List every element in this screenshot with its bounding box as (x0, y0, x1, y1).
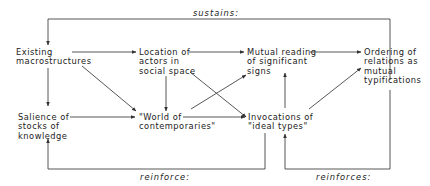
node-location-of-actors: Location of actors in social space (139, 48, 196, 76)
label-sustains: sustains: (193, 8, 239, 18)
edge-sustains (48, 19, 390, 80)
node-ordering-of-relations: Ordering of relations as mutual typifica… (364, 48, 421, 85)
edge-existing-world (82, 66, 136, 111)
edge-world-mutual (191, 75, 246, 109)
node-invocations-of-ideal-types: Invocations of "ideal types" (248, 113, 313, 132)
node-world-of-contemporaries: "World of contemporaries" (139, 113, 216, 132)
label-reinforces: reinforces: (316, 172, 371, 182)
edge-reinforce (48, 133, 265, 169)
node-existing-macrostructures: Existing macrostructures (16, 48, 92, 67)
edge-location-invocations (190, 72, 246, 117)
node-salience-of-stocks: Salience of stocks of knowledge (18, 113, 69, 141)
diagram-connectors (0, 0, 430, 186)
node-mutual-reading: Mutual reading of significant signs (247, 48, 316, 76)
edge-invocations-ordering (309, 68, 361, 109)
label-reinforce: reinforce: (140, 172, 190, 182)
